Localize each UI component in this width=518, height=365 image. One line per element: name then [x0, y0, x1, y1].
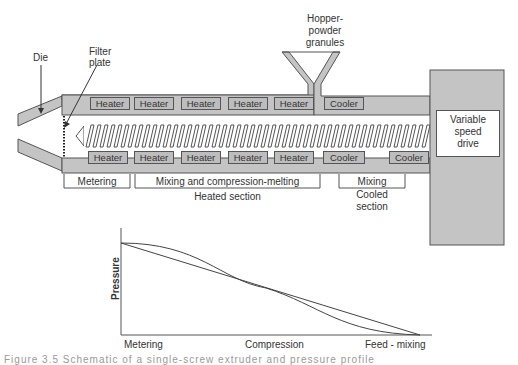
die-label: Die [33, 52, 48, 63]
top-heater-5: Heater [274, 97, 314, 110]
chart-x-tick-feed-mixing: Feed - mixing [365, 339, 426, 350]
bottom-heater-5: Heater [274, 151, 314, 164]
bottom-heater-4: Heater [228, 151, 268, 164]
bottom-heater-3: Heater [181, 151, 221, 164]
top-heater-1: Heater [90, 97, 130, 110]
die-lower [18, 139, 62, 171]
top-heater-2: Heater [134, 97, 174, 110]
filter-plate-label-1: Filter [89, 46, 111, 57]
drive-label-3: drive [437, 138, 499, 150]
chart-x-tick-metering: Metering [124, 339, 163, 350]
section-cooled-1: Cooled [339, 189, 405, 200]
section-heated: Heated section [135, 191, 320, 202]
section-mixing: Mixing [339, 176, 405, 187]
section-cooled-2: section [339, 201, 405, 212]
bottom-heater-2: Heater [134, 151, 174, 164]
section-metering: Metering [64, 176, 130, 187]
hopper-label-3: granules [290, 37, 360, 48]
top-heater-3: Heater [181, 97, 221, 110]
hopper-label-1: Hopper- [290, 13, 360, 24]
drive-housing [430, 70, 504, 245]
drive-label-1: Variable [437, 114, 499, 126]
section-mixing-compression: Mixing and compression-melting [135, 176, 320, 187]
top-cooler: Cooler [324, 97, 364, 110]
filter-plate-label-2: plate [89, 57, 111, 68]
drive-label-2: speed [437, 126, 499, 138]
variable-speed-drive: Variable speed drive [436, 110, 500, 157]
figure-caption: Figure 3.5 Schematic of a single-screw e… [4, 354, 375, 365]
chart-x-tick-compression: Compression [245, 339, 304, 350]
bottom-heater-1: Heater [88, 151, 128, 164]
bottom-cooler-1: Cooler [323, 151, 365, 164]
screw [76, 124, 430, 148]
top-heater-4: Heater [228, 97, 268, 110]
bottom-cooler-2: Cooler [389, 151, 429, 164]
hopper-label-2: powder [290, 25, 360, 36]
chart-y-label: Pressure [110, 257, 121, 300]
